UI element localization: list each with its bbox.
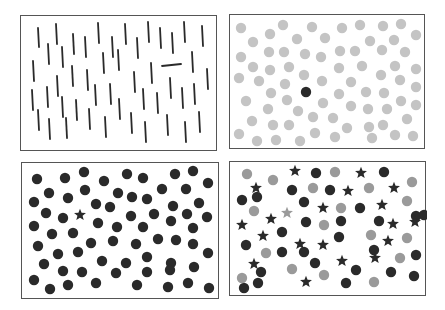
distractor-star-icon [257, 230, 269, 241]
distractor-black-circle [142, 252, 152, 262]
distractor-vertical-bar [151, 63, 152, 83]
distractor-black-circle [29, 275, 39, 285]
distractor-black-circle [60, 173, 70, 183]
distractor-star-icon [250, 182, 262, 193]
distractor-black-circle [341, 278, 351, 288]
distractor-gray-circle [337, 23, 347, 33]
distractor-vertical-bar [170, 78, 171, 98]
distractor-star-icon [387, 218, 399, 229]
distractor-black-circle [277, 227, 287, 237]
distractor-vertical-bar [62, 97, 63, 117]
distractor-vertical-bar [143, 89, 144, 109]
distractor-gray-circle [336, 203, 346, 213]
distractor-star-icon [317, 239, 329, 250]
distractor-black-circle [86, 238, 96, 248]
distractor-gray-circle [365, 36, 375, 46]
distractor-gray-circle [261, 248, 271, 258]
distractor-black-circle [168, 201, 178, 211]
distractor-star-icon [382, 235, 394, 246]
distractor-star-icon [300, 276, 312, 287]
distractor-black-circle [336, 216, 346, 226]
distractor-vertical-bar [118, 50, 119, 70]
distractor-black-circle [79, 167, 89, 177]
distractor-gray-circle [396, 96, 406, 106]
distractor-gray-circle [265, 65, 275, 75]
distractor-vertical-bar [207, 69, 208, 89]
distractor-gray-circle [364, 122, 374, 132]
distractor-black-circle [58, 266, 68, 276]
distractor-black-circle [153, 234, 163, 244]
distractor-vertical-bar [110, 84, 111, 104]
distractor-black-circle [310, 258, 320, 268]
distractor-gray-circle [254, 76, 264, 86]
distractor-gray-circle [279, 47, 289, 57]
distractor-black-circle [32, 174, 42, 184]
distractor-gray-circle [377, 45, 387, 55]
panel-shape-popout: Shape pop-out [21, 162, 219, 299]
distractor-star-icon [317, 202, 329, 213]
conjunction-search-display [230, 162, 427, 297]
distractor-vertical-bar [105, 117, 106, 137]
distractor-gray-circle [280, 79, 290, 89]
distractor-black-circle [41, 208, 51, 218]
distractor-gray-circle [263, 104, 273, 114]
distractor-black-circle [202, 212, 212, 222]
distractor-vertical-bar [62, 47, 63, 67]
distractor-black-circle [188, 223, 198, 233]
visual-search-figure: Visual search display examples Orientati… [0, 0, 445, 310]
distractor-gray-circle [369, 277, 379, 287]
distractor-gray-circle [241, 96, 251, 106]
distractor-black-circle [112, 222, 122, 232]
distractor-black-circle [237, 195, 247, 205]
target-star-icon [74, 209, 86, 220]
distractor-star-icon [342, 185, 354, 196]
distractor-gray-circle [248, 37, 258, 47]
distractor-gray-circle [271, 135, 281, 145]
distractor-black-circle [53, 249, 63, 259]
panel-conjunction-search: Conjunction search [229, 161, 426, 296]
distractor-black-circle [189, 262, 199, 272]
distractor-black-circle [45, 284, 55, 294]
target-black-circle [301, 87, 311, 97]
distractor-gray-circle [346, 101, 356, 111]
distractor-vertical-bar [47, 87, 48, 107]
distractor-gray-circle [265, 29, 275, 39]
distractor-black-circle [325, 185, 335, 195]
distractor-vertical-bar [157, 93, 158, 113]
distractor-gray-circle [411, 64, 421, 74]
distractor-gray-circle [411, 100, 421, 110]
distractor-vertical-bar [48, 44, 49, 64]
distractor-star-icon [388, 182, 400, 193]
distractor-gray-circle [395, 253, 405, 263]
distractor-gray-circle [379, 88, 389, 98]
distractor-gray-circle [292, 34, 302, 44]
distractor-gray-circle [357, 61, 367, 71]
distractor-gray-circle [389, 35, 399, 45]
distractor-vertical-bar [131, 113, 132, 133]
distractor-gray-circle [300, 49, 310, 59]
distractor-black-circle [127, 192, 137, 202]
distractor-black-circle [111, 268, 121, 278]
distractor-gray-circle [355, 20, 365, 30]
distractor-gray-circle [378, 120, 388, 130]
distractor-gray-circle [361, 87, 371, 97]
shape-search-display [22, 163, 220, 300]
distractor-gray-circle [236, 23, 246, 33]
distractor-gray-circle [268, 175, 278, 185]
distractor-black-circle [188, 239, 198, 249]
distractor-black-circle [97, 256, 107, 266]
distractor-gray-circle [234, 73, 244, 83]
distractor-gray-circle [346, 77, 356, 87]
distractor-gray-circle [242, 169, 252, 179]
distractor-vertical-bar [49, 119, 50, 139]
distractor-black-circle [108, 236, 118, 246]
distractor-black-circle [91, 278, 101, 288]
distractor-black-circle [252, 192, 262, 202]
distractor-star-icon [289, 165, 301, 176]
distractor-black-circle [194, 198, 204, 208]
distractor-vertical-bar [72, 66, 73, 86]
distractor-black-circle [386, 267, 396, 277]
color-search-display [230, 15, 426, 150]
distractor-vertical-bar [89, 109, 90, 129]
distractor-gray-circle [376, 70, 386, 80]
